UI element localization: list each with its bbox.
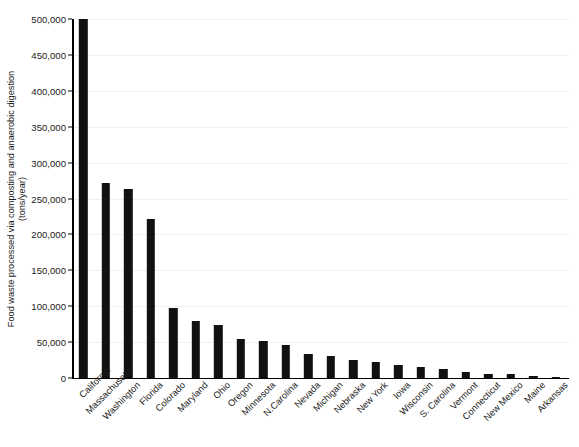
bar-slot xyxy=(545,19,568,378)
bar-slot xyxy=(275,19,298,378)
bar[interactable] xyxy=(439,369,447,378)
y-tick-label: 300,000 xyxy=(31,157,66,168)
bar[interactable] xyxy=(462,372,470,378)
bar[interactable] xyxy=(102,183,110,378)
bar-slot xyxy=(140,19,163,378)
bar-slot xyxy=(342,19,365,378)
bar-slot xyxy=(230,19,253,378)
bar-chart-figure: Food waste processed via composting and … xyxy=(0,0,579,447)
bar-slot xyxy=(320,19,343,378)
y-tick-label: 350,000 xyxy=(31,121,66,132)
bar-slot xyxy=(95,19,118,378)
bar[interactable] xyxy=(417,367,425,378)
bar-series xyxy=(72,19,567,378)
y-axis-ticks: 050,000100,000150,000200,000250,000300,0… xyxy=(0,0,72,398)
bar-slot xyxy=(477,19,500,378)
bar-slot xyxy=(252,19,275,378)
bar[interactable] xyxy=(529,376,537,379)
bar-slot xyxy=(522,19,545,378)
bar[interactable] xyxy=(124,189,132,378)
bar[interactable] xyxy=(349,360,357,378)
bar-slot xyxy=(500,19,523,378)
y-tick-label: 0 xyxy=(61,373,66,384)
bar-slot xyxy=(432,19,455,378)
bar-slot xyxy=(72,19,95,378)
bar-slot xyxy=(117,19,140,378)
bar[interactable] xyxy=(192,321,200,378)
bar[interactable] xyxy=(259,341,267,378)
bar[interactable] xyxy=(169,308,177,378)
y-tick-label: 200,000 xyxy=(31,229,66,240)
bar-slot xyxy=(455,19,478,378)
bar[interactable] xyxy=(484,374,492,378)
bar-slot xyxy=(162,19,185,378)
bar[interactable] xyxy=(394,365,402,378)
bar[interactable] xyxy=(507,374,515,378)
y-tick-label: 450,000 xyxy=(31,49,66,60)
y-tick-label: 150,000 xyxy=(31,265,66,276)
y-tick-label: 400,000 xyxy=(31,85,66,96)
bar-slot xyxy=(207,19,230,378)
bar[interactable] xyxy=(372,362,380,378)
bar-slot xyxy=(297,19,320,378)
bar[interactable] xyxy=(552,377,560,379)
x-axis-labels: CaliforniaMassachusettsWashingtonFlorida… xyxy=(72,380,567,447)
y-tick-label: 250,000 xyxy=(31,193,66,204)
bar[interactable] xyxy=(282,345,290,378)
bar-slot xyxy=(365,19,388,378)
bar[interactable] xyxy=(304,354,312,378)
bar[interactable] xyxy=(237,339,245,378)
bar[interactable] xyxy=(79,19,87,378)
bar-slot xyxy=(410,19,433,378)
y-tick-label: 50,000 xyxy=(37,337,66,348)
bar[interactable] xyxy=(147,219,155,378)
bar[interactable] xyxy=(327,356,335,378)
bar-slot xyxy=(185,19,208,378)
bar[interactable] xyxy=(214,325,222,378)
bar-slot xyxy=(387,19,410,378)
y-tick-label: 100,000 xyxy=(31,301,66,312)
y-tick-label: 500,000 xyxy=(31,14,66,25)
